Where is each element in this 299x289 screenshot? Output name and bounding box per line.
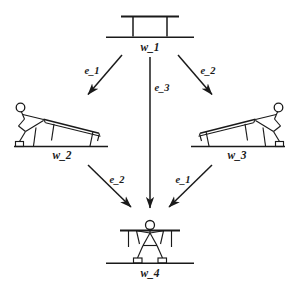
person-tilting-table-right-glyph — [191, 103, 285, 146]
edge-w3-to-w4[interactable]: e_1 — [169, 165, 212, 207]
table-upright-glyph — [106, 17, 194, 38]
edge-w1-to-w3[interactable]: e_2 — [178, 55, 216, 95]
edge-label-w1-w4: e_3 — [154, 82, 169, 93]
node-w4[interactable]: w_4 — [106, 221, 194, 280]
node-label-w2: w_2 — [52, 149, 71, 161]
diagram-canvas: w_1 — [0, 0, 299, 289]
person-tilting-table-left-glyph — [14, 103, 108, 146]
edge-w2-to-w4[interactable]: e_2 — [88, 165, 131, 207]
node-w3[interactable]: w_3 — [191, 103, 285, 161]
node-w1[interactable]: w_1 — [106, 17, 194, 54]
edge-label-w2-w4: e_2 — [109, 174, 125, 185]
node-label-w4: w_4 — [140, 267, 159, 279]
edge-label-w3-w4: e_1 — [175, 174, 190, 185]
edge-w1-to-w2[interactable]: e_1 — [84, 55, 122, 95]
node-w2[interactable]: w_2 — [14, 103, 108, 161]
edge-label-w1-w2: e_1 — [84, 65, 99, 76]
edge-w1-to-w4[interactable]: e_3 — [150, 57, 170, 208]
state-transition-diagram: w_1 — [0, 0, 299, 289]
node-label-w3: w_3 — [227, 149, 246, 161]
edge-label-w1-w3: e_2 — [200, 65, 216, 76]
person-holding-table-overhead-glyph — [106, 221, 194, 264]
node-label-w1: w_1 — [140, 41, 159, 53]
